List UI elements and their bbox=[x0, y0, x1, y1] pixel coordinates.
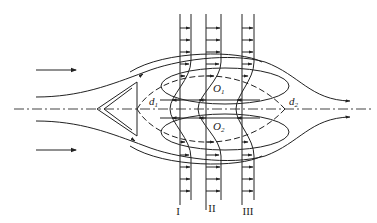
label-o1: O1 bbox=[213, 82, 224, 96]
section-label-I: I bbox=[176, 205, 180, 217]
label-d2: d2 bbox=[289, 95, 299, 109]
flow-diagram: d1 d2 O1 O2 I II III bbox=[0, 0, 377, 223]
velocity-profile-II bbox=[198, 14, 221, 210]
section-label-III: III bbox=[243, 205, 254, 217]
label-d1: d1 bbox=[149, 95, 158, 109]
label-o2: O2 bbox=[213, 120, 225, 134]
section-label-II: II bbox=[208, 202, 216, 214]
velocity-profile-I bbox=[170, 14, 191, 205]
